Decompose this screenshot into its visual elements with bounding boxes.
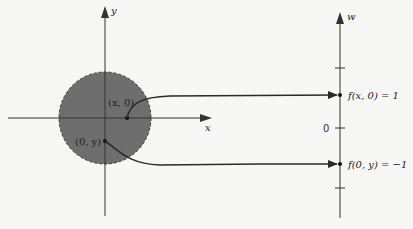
function-mapping-diagram: x y (x, 0) (0, y) w 0 f(x, 0) = 1 f(0, y… [0,0,413,229]
point-0-y-label: (0, y) [75,136,101,147]
mapped-value-1-label: f(x, 0) = 1 [347,90,399,101]
w-zero-label: 0 [323,123,329,134]
x-axis-label: x [205,122,211,133]
mapped-point-1 [338,93,342,97]
w-axis-label: w [347,11,356,22]
mapped-value-minus-1-label: f(0, y) = −1 [347,159,407,170]
mapping-arrow-x-0 [127,95,337,118]
y-axis-arrowhead-icon [101,6,109,18]
w-axis-arrowhead-icon [336,12,344,24]
x-axis-arrowhead-icon [200,114,212,122]
y-axis-label: y [110,5,117,16]
mapped-point-minus-1 [338,162,342,166]
point-x-0-label: (x, 0) [108,97,134,108]
